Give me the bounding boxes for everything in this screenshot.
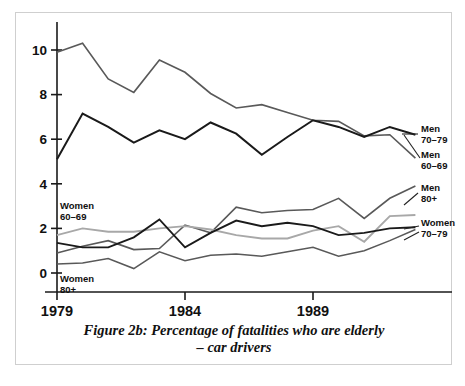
annotation-women-80-line1: Women — [60, 273, 94, 284]
leader-men-80 — [404, 193, 418, 205]
series-line-women-60-69 — [57, 215, 415, 242]
y-tick-label-6: 6 — [39, 132, 47, 147]
series-line-women-70-79 — [57, 219, 415, 247]
series-line-men-80 — [57, 186, 415, 253]
annotation-women-60-69-line1: Women — [60, 200, 94, 211]
x-tick-label-1989: 1989 — [297, 303, 329, 319]
annotation-women-60-69-line2: 60–69 — [60, 211, 86, 222]
x-axis-ticks: 197919841989 — [41, 292, 329, 319]
y-tick-label-0: 0 — [39, 266, 47, 281]
figure-container: 0246810 197919841989 Men 70–79 Men 60–69… — [0, 0, 465, 386]
series-line-men-60-69 — [57, 43, 415, 158]
y-tick-label-10: 10 — [32, 43, 47, 58]
annotation-leaders — [402, 134, 420, 240]
figure-caption: Figure 2b: Percentage of fatalities who … — [25, 322, 443, 356]
annotation-men-70-79-line1: Men — [421, 123, 440, 134]
annotation-men-70-79-line2: 70–79 — [421, 134, 447, 145]
annotation-women-70-79-line2: 70–79 — [421, 228, 447, 239]
y-tick-label-2: 2 — [39, 221, 47, 236]
series-lines — [57, 43, 415, 268]
y-tick-label-8: 8 — [39, 87, 47, 102]
annotation-men-80-line2: 80+ — [421, 193, 438, 204]
y-tick-label-4: 4 — [39, 177, 47, 192]
caption-line-1: Figure 2b: Percentage of fatalities who … — [25, 322, 443, 339]
caption-line-2: – car drivers — [25, 339, 443, 356]
x-tick-label-1984: 1984 — [169, 303, 201, 319]
annotation-men-60-69-line1: Men — [421, 149, 440, 160]
annotation-men-80-line1: Men — [421, 182, 440, 193]
annotation-women-80-line2: 80+ — [60, 284, 77, 295]
x-tick-label-1979: 1979 — [41, 303, 73, 319]
annotation-women-70-79-line1: Women — [421, 217, 455, 228]
series-line-men-70-79 — [57, 114, 415, 160]
annotation-men-60-69-line2: 60–69 — [421, 160, 447, 171]
